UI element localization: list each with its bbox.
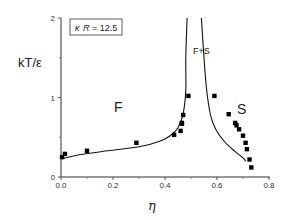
kappa-symbol: κ: [75, 23, 80, 33]
x-axis-title: η: [148, 198, 156, 213]
coexistence-curve: [62, 18, 187, 159]
coexistence-curve: [201, 18, 245, 161]
svg-text:κ R = 12.5: κ R = 12.5: [75, 23, 117, 33]
x-tick-label: 0.6: [211, 181, 223, 190]
x-tick-label: 0.8: [263, 181, 275, 190]
data-points: [60, 94, 254, 170]
annotation-value: = 12.5: [92, 23, 117, 33]
coexistence-curves: [62, 18, 246, 161]
data-point-marker: [249, 165, 253, 169]
phase-diagram: 0.00.20.40.60.8012 κ R = 12.5 kT/ε η FF+…: [0, 0, 287, 220]
data-point-marker: [237, 127, 241, 131]
r-symbol: R: [83, 23, 90, 33]
y-tick-label: 1: [51, 94, 56, 103]
data-point-marker: [227, 112, 231, 116]
data-point-marker: [212, 94, 216, 98]
region-label: F: [114, 99, 123, 115]
region-labels: FF+SS: [114, 46, 246, 117]
data-point-marker: [186, 94, 190, 98]
y-tick-label: 0: [51, 173, 56, 182]
data-point-marker: [63, 152, 67, 156]
data-point-marker: [245, 147, 249, 151]
data-point-marker: [234, 123, 238, 127]
data-point-marker: [181, 113, 185, 117]
data-point-marker: [172, 133, 176, 137]
x-tick-label: 0.2: [107, 181, 119, 190]
y-axis-title: kT/ε: [18, 55, 42, 70]
data-point-marker: [247, 157, 251, 161]
x-tick-label: 0.0: [55, 181, 67, 190]
data-point-marker: [241, 133, 245, 137]
annotation-box: κ R = 12.5: [70, 19, 122, 35]
data-point-marker: [180, 121, 184, 125]
data-point-marker: [178, 129, 182, 133]
region-label: F+S: [193, 46, 210, 56]
y-tick-label: 2: [51, 14, 56, 23]
x-tick-label: 0.4: [159, 181, 171, 190]
data-point-marker: [243, 141, 247, 145]
data-point-marker: [85, 149, 89, 153]
data-point-marker: [134, 141, 138, 145]
region-label: S: [237, 101, 246, 117]
